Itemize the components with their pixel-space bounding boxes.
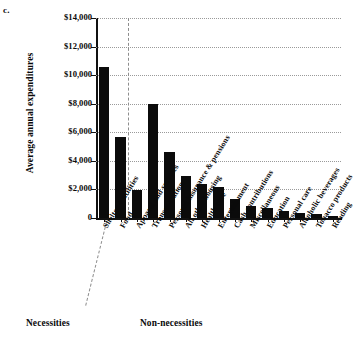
y-tick-label: 0 xyxy=(88,212,92,222)
y-tick-label: $4,000 xyxy=(68,155,92,165)
group-caption-non-necessities: Non-necessities xyxy=(140,318,202,328)
y-tick-label: $10,000 xyxy=(64,69,92,79)
gridline xyxy=(96,161,341,162)
y-axis-title: Average annual expenditures xyxy=(25,28,35,198)
y-tick-label: $14,000 xyxy=(64,12,92,22)
gridline xyxy=(96,104,341,105)
y-tick-label: $6,000 xyxy=(68,126,92,136)
y-tick-label: $12,000 xyxy=(64,41,92,51)
y-tick-label: $8,000 xyxy=(68,98,92,108)
y-tick-label: $2,000 xyxy=(68,183,92,193)
gridline xyxy=(96,18,341,19)
gridline xyxy=(96,132,341,133)
group-divider-line-lower xyxy=(85,222,107,306)
group-caption-necessities: Necessities xyxy=(26,318,70,328)
panel-label: c. xyxy=(3,5,10,15)
gridline xyxy=(96,47,341,48)
bar xyxy=(99,67,110,218)
gridline xyxy=(96,75,341,76)
